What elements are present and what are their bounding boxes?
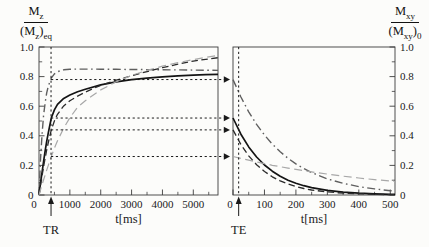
y-tick-label: 0.8 bbox=[20, 70, 34, 82]
tr-label: TR bbox=[43, 223, 60, 237]
y-tick-label: 0 bbox=[400, 189, 406, 201]
mapping-arrowhead bbox=[224, 76, 230, 82]
x-tick-label: 200 bbox=[288, 198, 305, 210]
x-tick-label: 4000 bbox=[151, 198, 174, 210]
x-tick-label: 100 bbox=[256, 198, 273, 210]
y-tick-label: 0.6 bbox=[400, 100, 414, 112]
right-axis-title: Mxy (Mxy)0 bbox=[381, 4, 429, 42]
longitudinal-recovery-dashed-curve bbox=[39, 58, 218, 195]
left-axis-title: Mz (Mz)eq bbox=[15, 4, 57, 42]
x-tick-label: 400 bbox=[351, 198, 368, 210]
y-tick-label: 0.8 bbox=[400, 70, 414, 82]
transverse-decay-solid-curve bbox=[233, 118, 395, 194]
figure-svg: 01000200030004000500000.20.40.60.81.0t[m… bbox=[0, 0, 429, 247]
te-arrowhead bbox=[236, 197, 242, 205]
x-axis-label-longitudinal-recovery: t[ms] bbox=[115, 212, 141, 226]
y-tick-label: 0.4 bbox=[400, 129, 414, 141]
mapping-arrowhead bbox=[224, 115, 230, 121]
mapping-arrowhead bbox=[224, 153, 230, 159]
x-axis-label-transverse-decay: t[ms] bbox=[301, 212, 327, 226]
x-tick-label: 3000 bbox=[121, 198, 144, 210]
tr-arrowhead bbox=[48, 197, 54, 205]
transverse-decay-dashdot-curve bbox=[233, 80, 395, 191]
relaxation-figure: 01000200030004000500000.20.40.60.81.0t[m… bbox=[0, 0, 429, 247]
transverse-decay-longdash-curve bbox=[233, 157, 395, 182]
y-tick-label: 0.2 bbox=[20, 159, 34, 171]
y-tick-label: 1.0 bbox=[20, 41, 34, 53]
left-axis-numerator: Mz bbox=[24, 4, 47, 23]
y-tick-label: 0.2 bbox=[400, 159, 414, 171]
right-axis-numerator: Mxy bbox=[391, 4, 419, 23]
transverse-decay-dashed-curve bbox=[233, 130, 395, 195]
x-tick-label: 1000 bbox=[59, 198, 82, 210]
longitudinal-recovery-solid-curve bbox=[39, 74, 218, 195]
y-tick-label: 0.4 bbox=[20, 129, 34, 141]
x-tick-label: 300 bbox=[319, 198, 336, 210]
right-axis-denominator: (Mxy)0 bbox=[381, 23, 429, 41]
x-tick-label: 5000 bbox=[182, 198, 205, 210]
y-tick-label: 1.0 bbox=[400, 41, 414, 53]
x-tick-label: 500 bbox=[382, 198, 399, 210]
longitudinal-recovery-longdash-curve bbox=[39, 55, 218, 195]
x-tick-label: 0 bbox=[227, 198, 233, 210]
longitudinal-recovery-dashdot-curve bbox=[39, 69, 218, 195]
x-tick-label: 2000 bbox=[90, 198, 113, 210]
te-label: TE bbox=[231, 223, 247, 237]
y-tick-label: 0 bbox=[28, 189, 34, 201]
y-tick-label: 0.6 bbox=[20, 100, 34, 112]
mapping-arrowhead bbox=[224, 127, 230, 133]
left-axis-denominator: (Mz)eq bbox=[15, 23, 57, 41]
